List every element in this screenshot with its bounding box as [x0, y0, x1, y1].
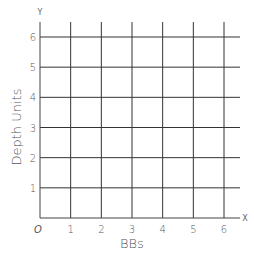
x-tick-label: 3 [129, 224, 135, 235]
y-tick-label: 4 [30, 92, 36, 103]
axes [40, 22, 240, 218]
x-axis-letter: X [242, 214, 248, 223]
x-tick-label: 5 [190, 224, 196, 235]
grid [40, 22, 240, 218]
x-axis-label: BBs [120, 236, 144, 251]
x-tick-label: 2 [98, 224, 104, 235]
chart: 123456123456 Y X O BBs Depth Units [0, 0, 254, 255]
y-tick-label: 3 [30, 123, 36, 134]
x-tick-label: 4 [159, 224, 165, 235]
y-tick-label: 6 [30, 32, 36, 43]
x-tick-label: 6 [221, 224, 227, 235]
y-tick-label: 5 [30, 62, 36, 73]
tick-labels: 123456123456 [30, 32, 227, 235]
x-tick-label: 1 [67, 224, 73, 235]
y-axis-letter: Y [37, 8, 43, 17]
y-axis-label: Depth Units [9, 89, 24, 166]
origin-label: O [34, 224, 42, 235]
y-tick-label: 1 [30, 183, 36, 194]
y-tick-label: 2 [30, 153, 36, 164]
